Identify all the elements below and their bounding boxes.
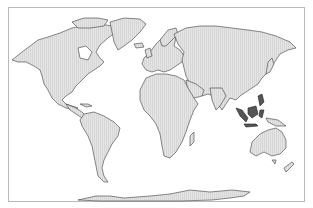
- australia: [250, 128, 286, 156]
- sulawesi: [259, 110, 264, 118]
- antarctica: [78, 190, 250, 201]
- borneo: [248, 106, 258, 118]
- tasmania: [272, 160, 276, 164]
- philippines: [258, 94, 264, 106]
- new-guinea: [266, 118, 286, 126]
- malaysia-sumatra: [236, 108, 248, 122]
- north-america: [12, 24, 116, 110]
- madagascar: [190, 132, 194, 146]
- new-zealand: [284, 162, 294, 172]
- south-america: [80, 112, 120, 182]
- world-map: [0, 0, 313, 208]
- caribbean: [80, 104, 92, 107]
- arctic-islands: [72, 18, 108, 28]
- java: [244, 124, 258, 127]
- iceland: [134, 43, 144, 48]
